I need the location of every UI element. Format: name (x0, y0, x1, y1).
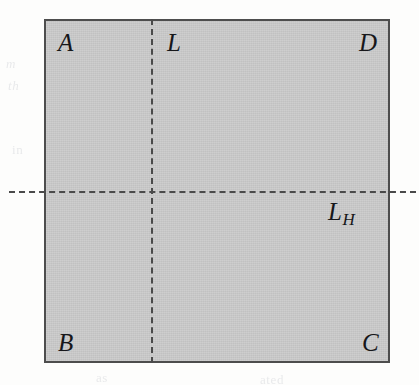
horizontal-dashed-line (9, 191, 416, 193)
horizontal-line-label-base: L (328, 198, 342, 225)
horizontal-line-label: LH (328, 199, 355, 228)
vertex-label-b: B (58, 330, 73, 355)
bleed-text: ated (260, 372, 284, 385)
vertex-label-c: C (362, 330, 379, 355)
bleed-text: m (6, 56, 16, 72)
bleed-text: as (96, 370, 108, 385)
bleed-text: in (12, 142, 23, 158)
vertex-label-a: A (58, 30, 73, 55)
vertex-label-d: D (359, 30, 377, 55)
vertical-line-label: L (167, 30, 181, 55)
horizontal-line-label-subscript: H (342, 210, 354, 229)
geometry-figure: m th vertical and the in of as ated A D … (0, 0, 419, 385)
bleed-text: th (8, 78, 19, 94)
